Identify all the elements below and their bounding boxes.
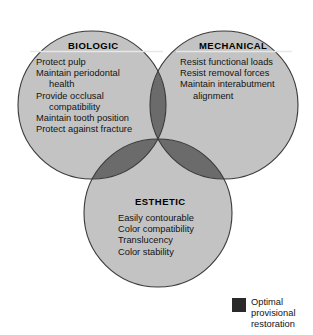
list-item: Provide occlusal	[36, 91, 132, 102]
list-item: Translucency	[118, 235, 194, 246]
set-items-biologic: Protect pulp Maintain periodontal health…	[36, 57, 132, 135]
set-title-mechanical: MECHANICAL	[199, 40, 267, 51]
list-item: compatibility	[36, 102, 132, 113]
set-title-biologic: BIOLOGIC	[68, 40, 119, 51]
legend-label-line1: Optimal	[251, 297, 295, 308]
list-item: Color compatibility	[118, 224, 194, 235]
legend-label-line3: restoration	[251, 319, 295, 330]
list-item: alignment	[180, 91, 275, 102]
set-title-esthetic: ESTHETIC	[135, 196, 186, 207]
list-item: Easily contourable	[118, 213, 194, 224]
list-item: Resist functional loads	[180, 57, 275, 68]
list-item: Maintain tooth position	[36, 113, 132, 124]
legend-label: Optimal provisional restoration	[251, 297, 295, 331]
set-items-esthetic: Easily contourable Color compatibility T…	[118, 213, 194, 258]
list-item: Maintain interabutment	[180, 79, 275, 90]
list-item: Resist removal forces	[180, 68, 275, 79]
list-item: Color stability	[118, 247, 194, 258]
list-item: Protect against fracture	[36, 124, 132, 135]
list-item: Protect pulp	[36, 57, 132, 68]
list-item: health	[36, 79, 132, 90]
list-item: Maintain periodontal	[36, 68, 132, 79]
venn-diagram: BIOLOGIC Protect pulp Maintain periodont…	[0, 0, 313, 335]
legend-label-line2: provisional	[251, 308, 295, 319]
legend: Optimal provisional restoration	[232, 297, 295, 331]
set-items-mechanical: Resist functional loads Resist removal f…	[180, 57, 275, 102]
legend-swatch-optimal	[232, 298, 246, 312]
